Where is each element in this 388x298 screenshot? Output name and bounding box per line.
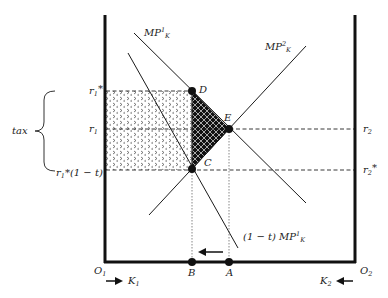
point-d [188,87,196,95]
r2-star-label: r2* [363,162,377,177]
mp1k-label: MP1K [143,26,171,40]
r1-label: r1 [89,123,98,136]
point-b-label: B [187,267,195,278]
point-d-label: D [198,84,207,95]
point-c [188,165,196,173]
r2-label: r2 [363,123,372,136]
origin-o2-label: O2 [360,265,372,278]
k2-label: K2 [319,275,332,288]
point-e [225,125,233,133]
r1-star-1mt-label: r1*(1 − t) [56,167,103,180]
tax-label: tax [12,125,28,136]
mp2k-label: MP2K [264,40,292,54]
k1-arrow-icon [106,277,123,285]
r1-star-label: r1* [89,83,103,98]
point-a [225,258,233,266]
origin-o1-label: O1 [94,265,106,278]
k2-arrow-icon [336,277,353,285]
tax-diagram: MP1K MP2K (1 − t) MP1K D E C B A r1* r1 … [0,0,388,298]
tax-brace [35,91,55,171]
mp1k-taxed-label: (1 − t) MP1K [243,230,306,244]
point-e-label: E [223,112,232,123]
point-a-label: A [225,267,233,278]
k1-label: K1 [127,275,140,288]
point-b [188,258,196,266]
point-c-label: C [204,157,212,168]
tax-revenue-region [106,91,192,170]
shift-arrow-icon [198,248,223,256]
